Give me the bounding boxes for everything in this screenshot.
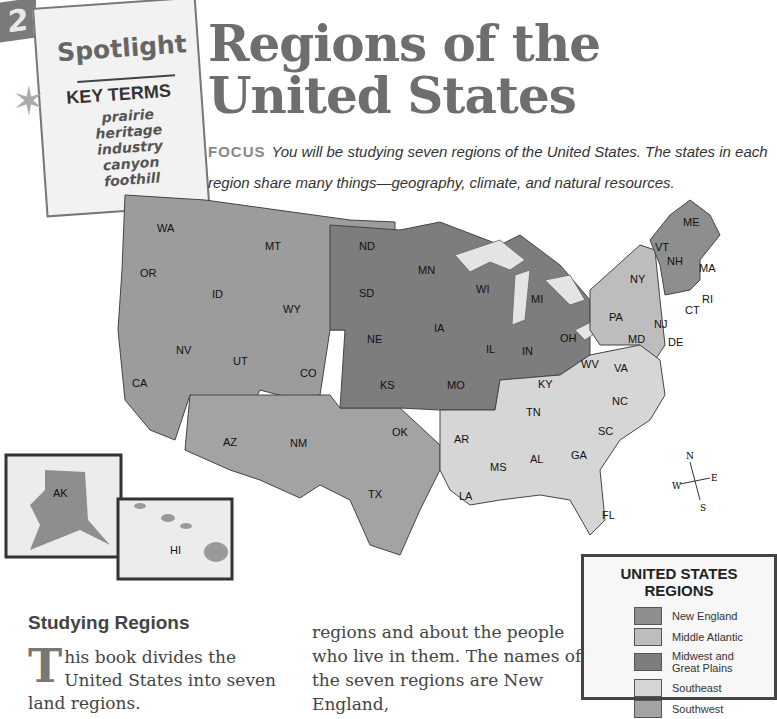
state-label: MO <box>447 379 465 391</box>
state-label: MT <box>265 240 281 252</box>
state-label: MS <box>490 461 507 473</box>
state-label: MA <box>699 262 716 274</box>
svg-text:N: N <box>686 451 694 461</box>
state-label: CA <box>132 377 148 389</box>
state-label: NV <box>176 344 192 356</box>
state-label: DE <box>668 336 683 348</box>
legend-swatch <box>634 628 662 646</box>
page-title-line1: Regions of the <box>208 18 600 70</box>
state-label: FL <box>602 509 615 521</box>
state-label: PA <box>609 311 624 323</box>
state-label: SC <box>598 425 613 437</box>
state-label: IA <box>434 322 445 334</box>
state-label: AZ <box>223 436 237 448</box>
state-label: CO <box>300 367 317 379</box>
state-label: WV <box>581 358 599 370</box>
spotlight-title: Spotlight <box>56 29 188 67</box>
legend-swatch <box>634 607 662 625</box>
state-label: ID <box>212 288 223 300</box>
legend-item-southwest: Southwest <box>634 698 774 719</box>
state-label: SD <box>359 287 374 299</box>
star-icon: ✶ <box>12 78 46 124</box>
state-label: CT <box>685 304 700 316</box>
key-terms-list: prairie heritage industry canyon foothil… <box>87 105 172 190</box>
state-label: AK <box>53 487 68 499</box>
svg-text:E: E <box>711 473 718 483</box>
state-label: NJ <box>654 318 667 330</box>
dropcap: T <box>28 646 62 686</box>
state-label: NC <box>612 395 628 407</box>
state-label: WI <box>476 283 489 295</box>
legend-swatch <box>634 653 662 671</box>
legend-swatch <box>634 700 662 718</box>
state-label: NY <box>630 273 646 285</box>
state-label: RI <box>702 293 713 305</box>
state-label: IN <box>522 345 533 357</box>
hawaii-inset <box>118 499 232 579</box>
legend-item-new-england: New England <box>634 605 774 626</box>
state-label: KS <box>380 379 395 391</box>
state-label: IL <box>486 343 495 355</box>
legend-item-midwest: Midwest and Great Plains <box>634 647 774 677</box>
state-label: ME <box>683 216 700 228</box>
state-label: MI <box>531 293 543 305</box>
state-label: WY <box>283 303 301 315</box>
legend-item-middle-atlantic: Middle Atlantic <box>634 626 774 647</box>
compass-rose-icon: N S E W <box>672 451 718 513</box>
state-label: HI <box>170 544 181 556</box>
state-label: OK <box>392 426 409 438</box>
state-label: TN <box>526 406 541 418</box>
state-label: TX <box>368 488 383 500</box>
state-label: LA <box>459 490 473 502</box>
body-text-col2: regions and about the people who live in… <box>312 620 582 716</box>
us-regions-map: WA OR CA ID NV MT WY UT CO AZ NM ND SD N… <box>0 180 777 600</box>
legend-title: UNITED STATES REGIONS <box>584 565 774 599</box>
map-legend: UNITED STATES REGIONS New England Middle… <box>581 554 777 700</box>
state-label: ND <box>359 240 375 252</box>
state-label: NE <box>367 333 382 345</box>
state-label: UT <box>233 355 248 367</box>
state-label: KY <box>538 378 553 390</box>
state-label: NM <box>290 437 307 449</box>
body-text-col1: This book divides the United States into… <box>28 646 298 715</box>
state-label: MN <box>418 264 435 276</box>
state-label: GA <box>571 449 588 461</box>
state-label: VT <box>655 241 669 253</box>
page-title: Regions of the United States <box>208 18 600 122</box>
page-title-line2: United States <box>208 70 600 122</box>
state-label: AL <box>530 453 543 465</box>
state-label: VA <box>614 362 629 374</box>
section-heading: Studying Regions <box>28 612 190 634</box>
chapter-number-badge: 2 <box>0 0 36 43</box>
legend-swatch <box>634 679 662 697</box>
state-label: AR <box>454 433 469 445</box>
state-label: NH <box>667 255 683 267</box>
svg-text:S: S <box>700 503 706 513</box>
state-label: MD <box>628 333 645 345</box>
state-label: OR <box>140 267 157 279</box>
focus-label: FOCUS <box>208 143 266 160</box>
legend-item-southeast: Southeast <box>634 677 774 698</box>
svg-text:W: W <box>672 481 682 491</box>
state-label: OH <box>560 332 577 344</box>
state-label: WA <box>157 222 175 234</box>
